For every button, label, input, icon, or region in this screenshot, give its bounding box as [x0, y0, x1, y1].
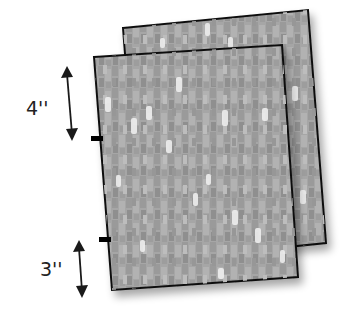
upper-measurement-label: 4'': [26, 97, 49, 119]
lower-measurement-label: 3'': [40, 258, 63, 280]
front-fabric-sheet: [94, 45, 298, 290]
lower-measure-arrow: [73, 240, 88, 298]
lower-edge-marker: [99, 237, 111, 242]
upper-measure-arrow: [61, 66, 78, 141]
upper-edge-marker: [91, 136, 103, 141]
